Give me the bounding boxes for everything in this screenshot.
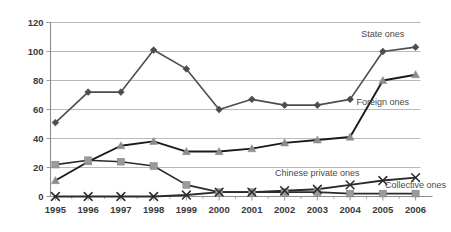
line-chart: 020406080100120 199519961997199819992000…	[0, 0, 451, 232]
series-marker-collective-ones	[347, 190, 354, 197]
x-tick-label: 2000	[209, 204, 230, 215]
gridlines-group	[47, 23, 421, 197]
series-marker-collective-ones	[412, 190, 419, 197]
annotation-chinese-private-ones: Chinese private ones	[275, 168, 360, 178]
chart-container: 020406080100120 199519961997199819992000…	[0, 0, 451, 232]
x-tick-label: 2006	[405, 204, 426, 215]
series-line-foreign-ones	[55, 75, 415, 181]
y-tick-label: 80	[33, 75, 44, 86]
series-marker-state-ones	[412, 44, 419, 51]
y-tick-label: 120	[28, 17, 44, 28]
annotation-state-ones: State ones	[361, 29, 405, 39]
x-tick-label: 2005	[372, 204, 394, 215]
y-tick-label: 0	[38, 191, 43, 202]
x-tick-label: 1999	[176, 204, 197, 215]
y-tick-label: 100	[28, 46, 44, 57]
y-tick-label: 40	[33, 133, 44, 144]
series-marker-state-ones	[314, 102, 321, 109]
y-axis-tick-labels: 020406080100120	[28, 17, 44, 202]
annotation-foreign-ones: Foreign ones	[357, 97, 410, 107]
series-marker-state-ones	[248, 96, 255, 103]
series-marker-state-ones	[281, 102, 288, 109]
series-marker-foreign-ones	[51, 177, 59, 184]
series-marker-collective-ones	[150, 163, 157, 170]
x-tick-label: 1995	[45, 204, 67, 215]
series-marker-collective-ones	[117, 158, 124, 165]
x-tick-label: 2002	[274, 204, 295, 215]
series-marker-collective-ones	[52, 161, 59, 168]
x-tick-label: 1998	[143, 204, 164, 215]
x-axis-tick-labels: 1995199619971998199920002001200220032004…	[45, 204, 426, 215]
y-tick-label: 60	[33, 104, 44, 115]
x-tick-label: 1997	[110, 204, 131, 215]
series-marker-collective-ones	[379, 190, 386, 197]
y-tick-label: 20	[33, 162, 44, 173]
x-tick-label: 2003	[307, 204, 328, 215]
x-tick-label: 2001	[241, 204, 263, 215]
series-markers-group	[51, 44, 419, 201]
annotation-collective-ones: Collective ones	[385, 180, 447, 190]
x-tick-label: 2004	[340, 204, 362, 215]
series-line-state-ones	[55, 47, 415, 122]
series-marker-collective-ones	[183, 182, 190, 189]
series-lines-group	[55, 47, 415, 196]
series-line-collective-ones	[55, 160, 415, 193]
series-marker-collective-ones	[85, 157, 92, 164]
x-tick-label: 1996	[78, 204, 99, 215]
